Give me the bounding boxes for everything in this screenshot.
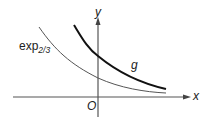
x-axis-label: x <box>193 90 199 102</box>
graph-figure: y x O g exp2/3 <box>0 0 208 121</box>
graph-canvas <box>0 0 208 121</box>
curve-g <box>74 25 166 89</box>
y-axis-label: y <box>95 6 101 18</box>
curve-exp-label-subscript: 2/3 <box>38 45 50 55</box>
x-axis-arrow-icon <box>183 95 191 100</box>
curve-exp-label: exp2/3 <box>19 40 50 52</box>
curve-exp-label-base: exp <box>19 39 38 53</box>
origin-label: O <box>87 100 96 112</box>
curve-g-label: g <box>131 59 138 71</box>
